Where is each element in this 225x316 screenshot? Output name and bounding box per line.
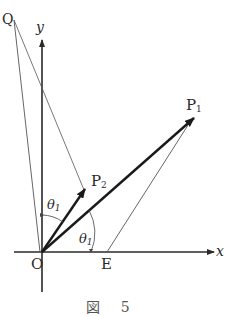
angle-arc-upper [42, 215, 63, 222]
label-theta-lower-main: θ [79, 231, 87, 246]
label-theta-lower-sub: 1 [87, 237, 93, 247]
figure-caption: 図 5 [0, 296, 224, 316]
label-p2-main: P [91, 172, 101, 190]
label-origin: O [31, 257, 43, 272]
label-p1: P1 [186, 98, 202, 114]
label-p2-sub: 2 [101, 180, 107, 190]
label-e: E [101, 257, 112, 272]
label-theta-upper-sub: 1 [55, 203, 61, 213]
vector-o-p1 [42, 118, 194, 252]
label-theta-upper: θ1 [47, 198, 61, 213]
label-q: Q [2, 12, 13, 26]
label-y-axis: y [36, 20, 44, 34]
label-p1-sub: 1 [196, 104, 202, 114]
label-theta-upper-main: θ [47, 197, 55, 212]
label-x-axis: x [216, 244, 224, 258]
line-e-p1 [107, 122, 190, 252]
line-q-p2 [14, 20, 84, 190]
line-q-o [14, 20, 40, 252]
label-p2: P2 [91, 174, 107, 190]
label-theta-lower: θ1 [79, 232, 93, 247]
label-p1-main: P [186, 96, 196, 114]
